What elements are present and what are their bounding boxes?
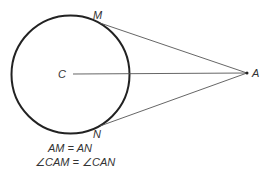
label-a: A	[251, 67, 259, 79]
label-m: M	[93, 9, 103, 21]
tangent-diagram: M C A N AM = AN ∠CAM = ∠CAN	[0, 0, 269, 172]
point-a-dot	[246, 72, 249, 75]
tangent-line-an	[100, 73, 247, 126]
segment-ca	[73, 73, 247, 74]
tangent-line-am	[100, 23, 247, 73]
equation-lengths: AM = AN	[47, 142, 92, 154]
label-c: C	[58, 68, 66, 80]
equation-angles: ∠CAM = ∠CAN	[35, 156, 115, 168]
label-n: N	[93, 128, 101, 140]
circle	[12, 16, 130, 134]
